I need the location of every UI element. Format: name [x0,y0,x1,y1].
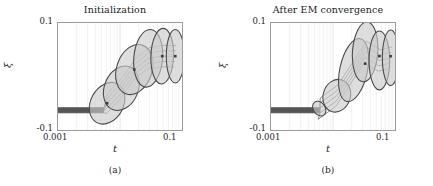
plot-area-a [57,22,183,131]
plot-svg-a [58,23,182,130]
y-axis-label: ξ [2,62,13,68]
panel-after-em-convergence: After EM convergence 0.1 -0.1 0.001 0.1 … [217,0,433,186]
subcaption-b: (b) [217,165,433,175]
component-ellipses-a [82,28,182,130]
x-axis-label: t [0,143,216,154]
y-axis-tick-top: 0.1 [226,16,266,26]
x-axis-label: t [217,143,433,154]
panel-title: After EM convergence [217,4,433,15]
mean-marker [389,55,392,58]
subcaption-a: (a) [0,165,216,175]
component-6 [382,30,395,86]
x-axis-tick-right: 0.1 [376,132,390,142]
panel-initialization: Initialization 0.1 -0.1 0.001 0.1 ξ t (a… [0,0,216,186]
mean-marker [378,55,381,58]
plot-svg-b [271,23,395,130]
x-axis-tick-left: 0.001 [256,132,280,142]
component-ellipses-b [310,23,395,119]
mean-marker [133,68,136,71]
panel-title: Initialization [0,4,216,15]
figure-container: Initialization 0.1 -0.1 0.001 0.1 ξ t (a… [0,0,433,186]
mean-marker [161,55,164,58]
mean-marker [364,62,367,65]
mean-marker [174,55,177,58]
y-axis-label: ξ [217,62,228,68]
x-axis-tick-right: 0.1 [163,132,177,142]
x-axis-tick-left: 0.001 [43,132,67,142]
y-axis-tick-top: 0.1 [13,16,53,26]
plot-area-b [270,22,396,131]
mean-marker [106,102,109,105]
